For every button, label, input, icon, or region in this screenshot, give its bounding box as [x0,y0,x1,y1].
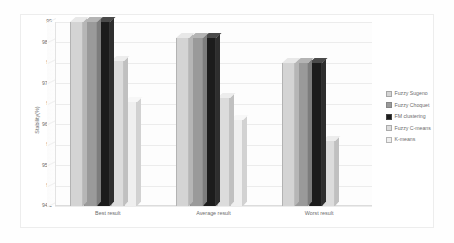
legend-color-swatch [386,114,392,120]
bar-group [176,22,243,206]
bar-side-face [203,34,207,206]
x-axis-category-labels: Best resultAverage resultWorst result [55,211,372,223]
bar-group [282,22,349,206]
bar [282,63,295,206]
y-axis-line [55,22,56,206]
legend-item[interactable]: Fuzzy Sugeno [386,88,452,100]
legend-item-label: Fuzzy Sugeno [395,91,428,96]
x-axis-category-label: Best result [55,211,161,216]
legend-color-swatch [386,125,392,131]
bar-side-face [137,97,141,206]
x-axis-category-label: Average result [161,211,267,216]
legend-item-label: Fuzzy C-means [395,126,431,131]
bar-front-face [70,22,83,206]
bar-side-face [83,18,87,206]
legend-color-swatch [386,137,392,143]
bar-side-face [322,58,326,206]
bar-side-face [124,56,128,206]
bar-side-face [189,34,193,206]
legend-item-label: K-means [395,137,416,142]
bar-side-face [97,18,101,206]
bar-side-face [230,93,234,206]
legend-item[interactable]: K-means [386,134,452,146]
legend-item[interactable]: FM clustering [386,111,452,123]
bar-side-face [295,58,299,206]
x-axis-category-label: Worst result [266,211,372,216]
plot-area [55,22,372,206]
legend-color-swatch [386,91,392,97]
bar-front-face [282,63,295,206]
chart-legend: Fuzzy SugenoFuzzy ChoquetFM clusteringFu… [386,88,452,146]
bar-side-face [308,58,312,206]
bar [176,38,189,206]
bar-side-face [335,136,339,206]
legend-item-label: Fuzzy Choquet [395,103,430,108]
gridline [55,206,372,207]
bar [70,22,83,206]
plot-left-wall [47,22,55,206]
legend-color-swatch [386,102,392,108]
legend-item-label: FM clustering [395,114,426,119]
legend-item[interactable]: Fuzzy C-means [386,123,452,135]
bar-side-face [216,34,220,206]
bar-front-face [176,38,189,206]
stability-bar-chart: Stability(%) 9998.59897.59796.59695.5959… [0,0,454,243]
legend-item[interactable]: Fuzzy Choquet [386,100,452,112]
bar-group [70,22,137,206]
bar-side-face [243,116,247,206]
bar-side-face [110,18,114,206]
